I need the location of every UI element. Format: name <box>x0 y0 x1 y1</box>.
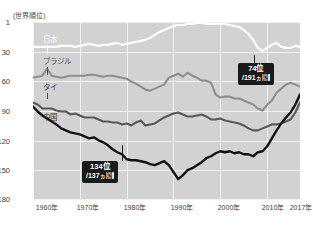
x-tick-4: 2000年 <box>218 202 241 212</box>
world-ranking-line-chart: (世界順位) 日本 ブラジル <box>0 0 313 227</box>
series-label-brazil-leader <box>47 67 48 75</box>
badge-china-mid-country: 国 <box>106 172 114 179</box>
y-tick-0: 1 <box>0 22 10 31</box>
series-line-japan <box>33 23 300 51</box>
y-tick-6: 180 <box>0 199 10 208</box>
y-tick-3: 90 <box>0 111 10 120</box>
badge-china-mid-line1: 134位 <box>86 163 114 172</box>
x-tick-1: 1970年 <box>77 202 100 212</box>
series-label-china: 中国 <box>43 114 57 122</box>
y-tick-2: 60 <box>0 81 10 90</box>
y-tick-4: 120 <box>0 141 10 150</box>
plot-area: 日本 ブラジル タイ 中国 74位 /191ヵ国 134位 /137ヵ国 <box>33 22 300 200</box>
badge-leader-china-mid <box>122 145 123 161</box>
series-label-japan-leader <box>47 45 48 54</box>
y-tick-1: 30 <box>0 52 10 61</box>
plot-inner: 日本 ブラジル タイ 中国 74位 /191ヵ国 134位 /137ヵ国 <box>33 22 300 200</box>
x-tick-3: 1990年 <box>171 202 194 212</box>
x-tick-5: 2010年 <box>262 202 285 212</box>
badge-china-mid-line2: /137ヵ国 <box>86 172 114 180</box>
x-tick-2: 1980年 <box>124 202 147 212</box>
series-line-thailand <box>33 103 300 131</box>
y-tick-5: 150 <box>0 170 10 179</box>
series-label-thailand-leader <box>47 93 48 99</box>
series-line-china <box>33 95 300 180</box>
badge-china-mid-denominator: /137 <box>86 172 100 179</box>
series-layer <box>33 22 300 200</box>
badge-china-end-line1: 74位 <box>242 65 270 74</box>
badge-china-end-denominator: /191 <box>242 74 256 81</box>
badge-china-mid: 134位 /137ヵ国 <box>82 161 118 183</box>
y-axis-unit-caption: (世界順位) <box>13 10 46 20</box>
series-label-brazil: ブラジル <box>43 58 71 66</box>
badge-china-end-country: 国 <box>262 74 270 81</box>
badge-china-end: 74位 /191ヵ国 <box>238 63 274 85</box>
badge-china-end-line2: /191ヵ国 <box>242 74 270 82</box>
series-label-japan: 日本 <box>43 36 57 44</box>
x-tick-6: 2017年 <box>290 202 313 212</box>
series-label-thailand: タイ <box>43 84 57 92</box>
x-tick-0: 1960年 <box>36 202 59 212</box>
